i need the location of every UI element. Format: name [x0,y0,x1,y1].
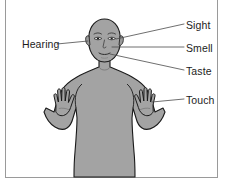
leader-line-sight [116,24,184,39]
label-hearing: Hearing [22,38,59,50]
senses-diagram: Sight Smell Taste Touch Hearing [0,0,227,190]
left-pupil [97,37,99,39]
label-taste: Taste [186,65,212,77]
leader-line-hearing [57,41,88,44]
leader-line-taste [110,54,184,70]
label-sight: Sight [186,19,210,31]
left-ear-shape [86,36,90,46]
label-touch: Touch [186,94,215,106]
torso-shape [44,60,165,177]
leader-line-touch [152,99,184,102]
right-pupil [111,37,113,39]
human-body-silhouette [44,19,165,177]
label-smell: Smell [186,42,213,54]
